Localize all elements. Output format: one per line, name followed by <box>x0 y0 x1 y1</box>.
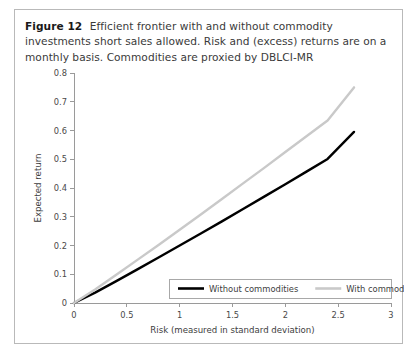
chart-series <box>74 87 354 303</box>
legend-label-1: Without commodities <box>209 284 298 294</box>
y-tick-label: 0.2 <box>54 241 67 251</box>
x-tick-label: 0 <box>71 310 76 320</box>
series-line-without-commodities <box>74 132 354 303</box>
y-tick-label: 0.1 <box>54 269 67 279</box>
x-tick-label: 1 <box>177 310 182 320</box>
x-tick-label: 0.5 <box>120 310 133 320</box>
series-line-with-commodities <box>74 87 354 303</box>
figure-frame: Figure 12Efficient frontier with and wit… <box>14 9 403 344</box>
x-tick-label: 2.5 <box>332 310 345 320</box>
x-tick-label: 3 <box>388 310 393 320</box>
chart-plot-area: 00.10.20.30.40.50.60.70.800.511.522.53Ri… <box>15 10 404 345</box>
y-tick-label: 0.4 <box>54 183 67 193</box>
y-tick-label: 0.3 <box>54 212 67 222</box>
y-tick-label: 0.8 <box>54 68 67 78</box>
y-tick-label: 0 <box>62 298 67 308</box>
legend-label-2: With commodities <box>346 284 404 294</box>
y-tick-label: 0.5 <box>54 154 67 164</box>
x-tick-label: 2 <box>283 310 288 320</box>
x-axis-title: Risk (measured in standard deviation) <box>150 325 314 335</box>
y-tick-label: 0.7 <box>54 97 67 107</box>
y-tick-label: 0.6 <box>54 126 67 136</box>
y-axis-title: Expected return <box>33 153 43 222</box>
x-tick-label: 1.5 <box>226 310 239 320</box>
chart-legend[interactable]: Without commoditiesWith commodities <box>169 279 404 298</box>
